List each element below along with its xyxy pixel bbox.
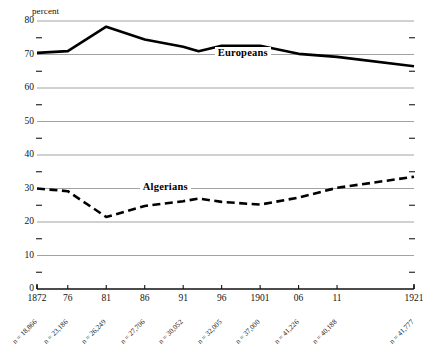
x-axis-tick-label: 1901: [238, 293, 282, 303]
chart-figure: percent 01020304050607080 18727681869196…: [0, 0, 436, 356]
x-axis-tick-label: 1921: [392, 293, 436, 303]
y-axis-tick-label: 10: [10, 250, 34, 260]
y-axis-tick-label: 40: [10, 149, 34, 159]
x-axis-tick-label: 06: [277, 293, 321, 303]
y-axis-tick-label: 80: [10, 15, 34, 25]
series-label-europeans: Europeans: [215, 47, 271, 58]
x-axis-tick-label: 76: [46, 293, 90, 303]
x-axis-tick-label: 11: [315, 293, 359, 303]
y-axis-tick-label: 50: [10, 116, 34, 126]
series-label-algerians: Algerians: [140, 181, 191, 192]
y-axis-unit-label: percent: [32, 6, 59, 16]
x-axis-tick-label: 86: [123, 293, 167, 303]
x-axis-tick-label: 96: [200, 293, 244, 303]
x-axis-tick-label: 91: [161, 293, 205, 303]
y-axis-tick-label: 30: [10, 183, 34, 193]
series-line-algerians: [37, 177, 414, 217]
y-axis-tick-label: 20: [10, 216, 34, 226]
y-axis-tick-label: 0: [10, 283, 34, 293]
x-axis-tick-label: 81: [84, 293, 128, 303]
y-axis-tick-label: 60: [10, 82, 34, 92]
y-axis-tick-label: 70: [10, 49, 34, 59]
